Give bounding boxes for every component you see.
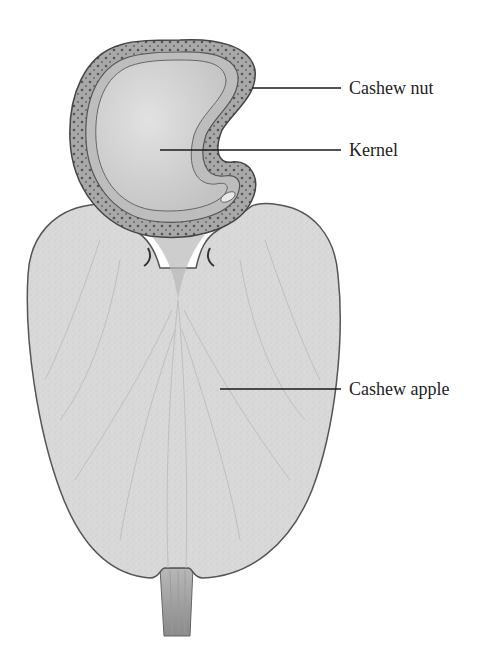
cashew-apple-shape	[27, 204, 340, 578]
label-cashew-nut: Cashew nut	[349, 79, 434, 97]
cashew-nut-shape	[70, 40, 256, 238]
label-kernel: Kernel	[349, 141, 398, 159]
cashew-diagram	[0, 0, 491, 658]
label-cashew-apple: Cashew apple	[349, 380, 449, 398]
stem	[160, 568, 193, 636]
